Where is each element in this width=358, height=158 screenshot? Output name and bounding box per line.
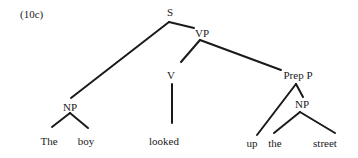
node-NP2: NP (295, 98, 309, 110)
edge-NP1-w_boy (70, 113, 88, 128)
word-w_boy: boy (78, 135, 95, 147)
word-w_the1: The (40, 135, 57, 147)
word-w_up: up (247, 137, 259, 149)
edge-NP2-w_the2 (274, 112, 300, 133)
edge-VP-PrepP (200, 40, 281, 70)
example-label: (10c) (20, 8, 44, 21)
edge-NP1-w_the1 (52, 113, 70, 127)
syntax-tree-diagram: (10c) SVPNPVPrep PNPTheboylookedupthestr… (0, 0, 358, 158)
edge-NP2-w_street (300, 112, 335, 133)
node-S: S (167, 6, 173, 18)
node-VP: VP (195, 27, 209, 39)
node-PrepP: Prep P (283, 69, 312, 81)
node-V: V (167, 69, 175, 81)
word-w_street: street (313, 137, 337, 149)
word-w_the2: the (268, 137, 282, 149)
edge-VP-V (181, 40, 200, 62)
edge-PrepP-w_up (257, 84, 296, 135)
edge-S-VP (169, 22, 194, 28)
edge-PrepP-NP2 (296, 84, 303, 97)
edge-S-NP1 (71, 22, 169, 98)
word-w_looked: looked (149, 135, 179, 147)
node-NP1: NP (63, 101, 77, 113)
